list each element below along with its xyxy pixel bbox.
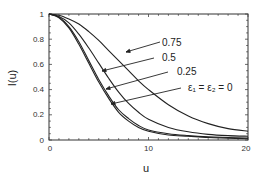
arrowhead-icon [106, 86, 110, 89]
curves [49, 14, 248, 139]
label-curve-0: ε₁ = ε₂ = 0 [188, 82, 233, 93]
x-tick-20: 20 [242, 144, 251, 153]
y-tick-1: 1 [40, 10, 45, 19]
y-tick-0.6: 0.6 [33, 60, 45, 69]
y-tick-0.2: 0.2 [33, 110, 45, 119]
chart: 0 0.2 0.4 0.6 0.8 1 0 10 20 u I(u) 0.75 … [0, 0, 264, 181]
y-tick-0: 0 [40, 136, 45, 145]
label-curve-0.25: 0.25 [177, 66, 197, 77]
y-axis-label: I(u) [6, 70, 18, 87]
y-tick-0.4: 0.4 [33, 85, 45, 94]
x-tick-0: 0 [48, 144, 53, 153]
x-axis-label: u [143, 162, 149, 174]
curve--1-2-0 [49, 14, 248, 139]
arrow-0.75 [126, 42, 160, 52]
curve-0.5 [49, 14, 248, 136]
arrowhead-icon [126, 49, 130, 52]
label-curve-0.75: 0.75 [162, 37, 182, 48]
x-tick-10: 10 [144, 144, 153, 153]
y-tick-0.8: 0.8 [33, 35, 45, 44]
arrow-0.5 [102, 58, 154, 71]
label-curve-0.5: 0.5 [162, 52, 176, 63]
curve-0.75 [49, 14, 248, 131]
arrow-0.25 [106, 72, 168, 89]
